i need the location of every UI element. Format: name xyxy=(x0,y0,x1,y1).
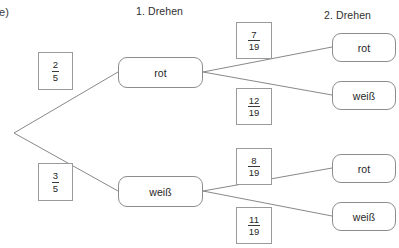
fraction-numerator: 2 xyxy=(52,60,59,71)
fraction-2-5: 2 5 xyxy=(52,60,59,82)
stage-2-header: 2. Drehen xyxy=(324,9,371,21)
prob-box-stage2-rot-rot: 7 19 xyxy=(236,22,272,59)
fraction-7-19: 7 19 xyxy=(248,30,261,52)
node-stage2-weiss-rot[interactable]: rot xyxy=(332,154,396,183)
fraction-12-19: 12 19 xyxy=(248,96,261,118)
fraction-numerator: 7 xyxy=(250,30,257,41)
prob-box-stage1-rot: 2 5 xyxy=(38,52,73,90)
node-stage1-rot[interactable]: rot xyxy=(118,57,203,88)
fraction-11-19: 11 19 xyxy=(248,215,261,237)
fraction-numerator: 12 xyxy=(248,96,261,107)
fraction-denominator: 19 xyxy=(248,166,261,178)
prob-box-stage2-weiss-weiss: 11 19 xyxy=(236,207,272,244)
exercise-label: e) xyxy=(0,6,9,18)
prob-box-stage2-weiss-rot: 8 19 xyxy=(236,148,272,185)
tree-diagram-canvas: e) 1. Drehen 2. Drehen 2 5 3 5 rot weiß … xyxy=(0,0,399,248)
fraction-numerator: 8 xyxy=(250,156,257,167)
node-stage2-rot-weiss[interactable]: weiß xyxy=(332,81,396,110)
node-stage2-rot-rot[interactable]: rot xyxy=(332,33,396,62)
stage-1-header: 1. Drehen xyxy=(136,5,183,17)
fraction-3-5: 3 5 xyxy=(52,171,59,193)
node-stage1-weiss[interactable]: weiß xyxy=(118,176,203,207)
fraction-numerator: 11 xyxy=(248,215,260,226)
fraction-denominator: 19 xyxy=(248,106,261,118)
fraction-denominator: 19 xyxy=(248,40,261,52)
fraction-denominator: 5 xyxy=(52,182,59,194)
fraction-denominator: 19 xyxy=(248,225,261,237)
fraction-8-19: 8 19 xyxy=(248,156,261,178)
prob-box-stage2-rot-weiss: 12 19 xyxy=(236,88,272,125)
fraction-numerator: 3 xyxy=(52,171,59,182)
node-stage2-weiss-weiss[interactable]: weiß xyxy=(332,202,396,231)
prob-box-stage1-weiss: 3 5 xyxy=(38,163,73,201)
fraction-denominator: 5 xyxy=(52,71,59,83)
